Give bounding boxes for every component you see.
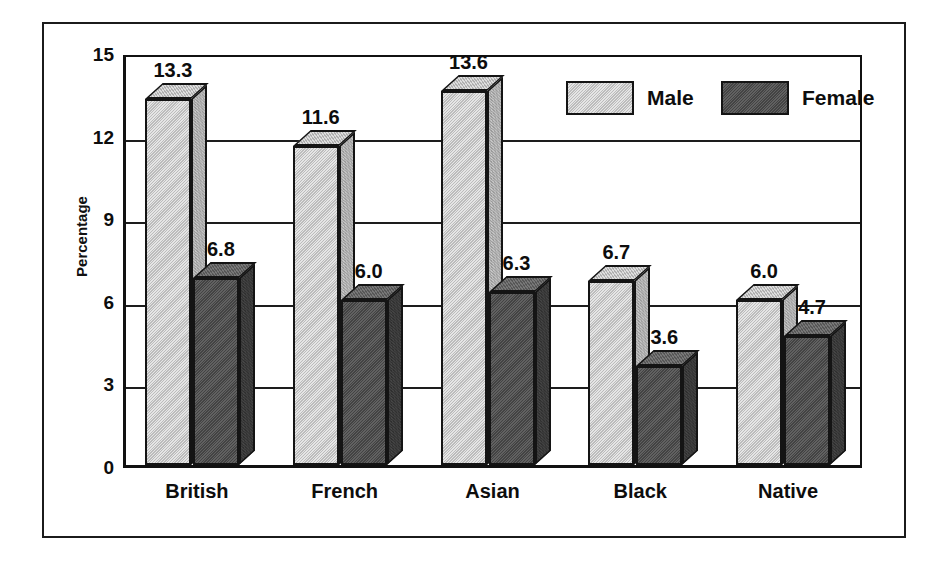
bar-front-face (193, 278, 239, 465)
x-label-native: Native (718, 480, 858, 503)
bar-asian-female (489, 292, 535, 465)
bar-front-face (784, 336, 830, 465)
y-tick-3: 3 (76, 375, 114, 394)
x-label-black: Black (570, 480, 710, 503)
bar-front-face (341, 300, 387, 465)
value-label-asian-male: 13.6 (424, 52, 514, 72)
bar-british-male (145, 99, 191, 465)
legend-swatch-female (721, 81, 789, 115)
bar-french-male (293, 146, 339, 465)
bar-chart: Percentage 03691215 13.36.811.66.013.66.… (0, 0, 934, 565)
bar-side-face (682, 351, 698, 465)
bar-front-face (441, 91, 487, 465)
bar-front-face (489, 292, 535, 465)
bar-side-face (830, 321, 846, 465)
value-label-black-male: 6.7 (571, 242, 661, 262)
legend-entry-female: Female (721, 75, 874, 121)
value-label-french-male: 11.6 (276, 107, 366, 127)
value-label-french-female: 6.0 (324, 261, 414, 281)
legend-entry-male: Male (566, 75, 694, 121)
legend-swatch-male (566, 81, 634, 115)
y-tick-12: 12 (76, 128, 114, 147)
bar-black-male (588, 281, 634, 465)
bar-french-female (341, 300, 387, 465)
y-tick-0: 0 (76, 458, 114, 477)
x-label-british: British (127, 480, 267, 503)
y-axis-tick-labels: 03691215 (70, 0, 114, 565)
y-tick-15: 15 (76, 45, 114, 64)
legend-label-female: Female (802, 86, 874, 110)
bar-front-face (293, 146, 339, 465)
legend: MaleFemale (566, 75, 846, 121)
value-label-black-female: 3.6 (619, 327, 709, 347)
bar-front-face (588, 281, 634, 465)
bar-side-face (387, 285, 403, 465)
bar-side-face (535, 277, 551, 465)
value-label-british-female: 6.8 (176, 239, 266, 259)
y-tick-6: 6 (76, 293, 114, 312)
legend-label-male: Male (647, 86, 694, 110)
x-label-asian: Asian (423, 480, 563, 503)
value-label-native-male: 6.0 (719, 261, 809, 281)
y-tick-9: 9 (76, 210, 114, 229)
bar-asian-male (441, 91, 487, 465)
x-axis-category-labels: BritishFrenchAsianBlackNative (123, 480, 862, 514)
bar-native-male (736, 300, 782, 465)
bar-front-face (736, 300, 782, 465)
bar-front-face (145, 99, 191, 465)
bar-british-female (193, 278, 239, 465)
bar-black-female (636, 366, 682, 465)
x-label-french: French (275, 480, 415, 503)
bar-side-face (239, 263, 255, 465)
bar-native-female (784, 336, 830, 465)
value-label-british-male: 13.3 (128, 60, 218, 80)
value-label-asian-female: 6.3 (472, 253, 562, 273)
value-label-native-female: 4.7 (767, 297, 857, 317)
bar-front-face (636, 366, 682, 465)
